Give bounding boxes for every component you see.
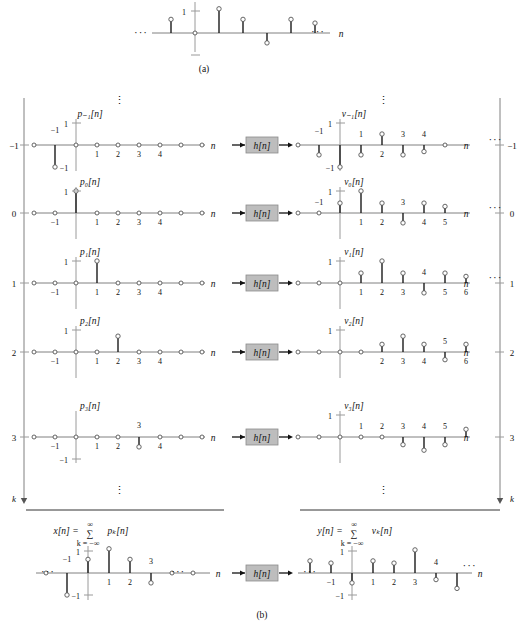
row-k-label-right: 1 (510, 279, 515, 289)
input-xtick-label: 1 (95, 150, 99, 159)
part-a-left-ellipsis: ··· (134, 26, 148, 38)
input-plot-zero-sample (137, 143, 141, 147)
output-plot-sample-marker (401, 334, 405, 338)
output-xtick-label: 5 (443, 218, 447, 227)
part-a-plot-sample-marker (265, 41, 269, 45)
output-xtick-label: 2 (380, 422, 384, 431)
output-plot-zero-sample (317, 211, 321, 215)
input-ytick-label: 1 (64, 188, 68, 197)
output-plot-zero-sample (359, 350, 363, 354)
input-plot-zero-sample (53, 281, 57, 285)
input-xtick-label: 2 (116, 442, 120, 451)
bottom-input-xtick-label: 2 (128, 578, 132, 587)
input-xtick-label: 4 (158, 150, 162, 159)
output-signal-name: v₃[n] (344, 401, 364, 411)
output-xtick-label: 5 (443, 422, 447, 431)
arrow-in-head (240, 142, 245, 147)
output-xtick-label: 1 (359, 288, 363, 297)
bottom-output-plot-sample-marker (413, 548, 417, 552)
arrow-in-head (240, 349, 245, 354)
figure-container: 1······n(a)kk⋮⋮⋮⋮−1−1p₋₁[n]1−1−11234nh[n… (0, 0, 524, 626)
input-plot-zero-sample (53, 211, 57, 215)
bottom-input-right-ellipsis: ··· (171, 565, 185, 577)
output-plot-zero-sample (317, 281, 321, 285)
input-xtick-label: 3 (137, 218, 141, 227)
system-block-label: h[n] (254, 209, 271, 219)
output-signal-name: v₁[n] (344, 247, 364, 257)
input-xtick-label: −1 (51, 357, 60, 366)
bottom-input-left-ellipsis: ··· (41, 565, 55, 577)
system-block-label: h[n] (254, 279, 271, 289)
output-ytick-label: 1 (328, 258, 332, 267)
arrow-in-head (240, 210, 245, 215)
input-xtick-label: 3 (137, 288, 141, 297)
bottom-input-plot-sample-marker (149, 581, 153, 585)
output-plot-sample-marker (338, 165, 342, 169)
output-ytick-label: 1 (328, 327, 332, 336)
bottom-input-plot-sample-marker (86, 557, 90, 561)
output-plot-zero-sample (296, 143, 300, 147)
output-signal-name: v₂[n] (344, 316, 364, 326)
bottom-output-axis-label: n (478, 569, 483, 579)
bottom-input-ytick-neg-label: −1 (71, 592, 80, 601)
output-plot-sample-marker (443, 271, 447, 275)
output-xtick-label: 1 (359, 130, 363, 139)
input-plot-zero-sample (158, 350, 162, 354)
caption-b: (b) (256, 610, 267, 621)
input-plot-zero-sample (179, 435, 183, 439)
input-plot-zero-sample (74, 435, 78, 439)
input-xtick-label: 2 (116, 218, 120, 227)
input-plot-zero-sample (32, 435, 36, 439)
row-k-label-left: 0 (12, 209, 17, 219)
row-k-label-right: 3 (510, 433, 515, 443)
input-plot-sample-marker (137, 445, 141, 449)
input-plot-zero-sample (158, 211, 162, 215)
input-plot-zero-sample (116, 143, 120, 147)
arrow-out-head (288, 434, 293, 439)
bottom-output-plot-sample-marker (308, 559, 312, 563)
input-plot-sample-marker (53, 165, 57, 169)
row-k-label-left: 1 (12, 279, 17, 289)
system-block-label: h[n] (254, 141, 271, 151)
output-plot-sample-marker (422, 149, 426, 153)
system-block-label: h[n] (254, 569, 271, 579)
output-plot-sample-marker (443, 358, 447, 362)
output-xtick-label: 4 (422, 130, 426, 139)
output-xtick-label: 4 (422, 268, 426, 277)
input-plot-zero-sample (137, 350, 141, 354)
signal-diagram-svg: 1······n(a)kk⋮⋮⋮⋮−1−1p₋₁[n]1−1−11234nh[n… (0, 0, 524, 626)
row-k-label-left: 2 (12, 348, 17, 358)
output-plot-zero-sample (338, 281, 342, 285)
output-axis-label: n (464, 209, 469, 219)
input-xtick-label: 4 (158, 288, 162, 297)
input-plot-zero-sample (116, 435, 120, 439)
input-plot-zero-sample (32, 211, 36, 215)
output-xtick-label: 4 (422, 357, 426, 366)
input-xtick-label: −1 (51, 218, 60, 227)
output-plot-zero-sample (296, 435, 300, 439)
output-plot-zero-sample (338, 435, 342, 439)
part-a-axis-label: n (339, 29, 344, 39)
output-plot-zero-sample (380, 435, 384, 439)
part-a-ytick-pos-label: 1 (182, 8, 186, 17)
input-plot-zero-sample (200, 435, 204, 439)
input-plot-zero-sample (179, 211, 183, 215)
input-xtick-label: 4 (158, 442, 162, 451)
output-ytick-label: 1 (328, 188, 332, 197)
output-plot-zero-sample (296, 350, 300, 354)
row-k-label-right: 2 (510, 348, 515, 358)
output-xtick-label: 2 (380, 288, 384, 297)
output-plot-sample-marker (443, 443, 447, 447)
bottom-right-vertical-ellipsis: ⋮ (378, 484, 390, 496)
bottom-output-ytick-neg-label: −1 (335, 592, 344, 601)
input-axis-label: n (211, 209, 216, 219)
input-xtick-label: 2 (116, 357, 120, 366)
bottom-output-ytick-pos-label: 1 (340, 548, 344, 557)
output-ytick-label: 1 (328, 412, 332, 421)
input-xtick-label: 3 (137, 357, 141, 366)
output-xtick-label: 3 (401, 357, 405, 366)
output-plot-sample-marker (422, 448, 426, 452)
sum-symbol-left: ∑ (87, 529, 94, 539)
row-k-label-left: 3 (12, 433, 17, 443)
input-ytick-label: 1 (64, 120, 68, 129)
